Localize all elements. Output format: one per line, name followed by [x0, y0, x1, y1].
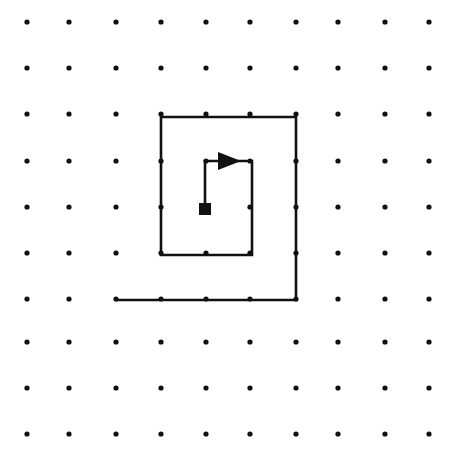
grid-dot	[24, 250, 29, 255]
grid-dot	[426, 431, 431, 436]
grid-dot	[382, 339, 387, 344]
grid-dot	[203, 385, 208, 390]
grid-dot	[382, 250, 387, 255]
grid-dot	[426, 111, 431, 116]
grid-dot	[24, 204, 29, 209]
grid-dot	[335, 19, 340, 24]
grid-dot	[66, 158, 71, 163]
grid-dot	[335, 111, 340, 116]
grid-dot	[382, 111, 387, 116]
diagram-canvas	[0, 0, 461, 470]
grid-dot	[382, 385, 387, 390]
grid-dot	[24, 296, 29, 301]
grid-dot	[247, 431, 252, 436]
grid-dot	[203, 431, 208, 436]
grid-dot	[293, 385, 298, 390]
grid-dot	[66, 19, 71, 24]
start-square-marker	[199, 203, 211, 215]
grid-dot	[382, 296, 387, 301]
grid-dot	[382, 65, 387, 70]
grid-dot	[203, 65, 208, 70]
grid-dot	[335, 431, 340, 436]
grid-dot	[113, 250, 118, 255]
grid-dot	[426, 339, 431, 344]
grid-dot	[24, 65, 29, 70]
grid-dot	[113, 111, 118, 116]
grid-dot	[66, 385, 71, 390]
grid-dot	[382, 431, 387, 436]
grid-dot	[335, 296, 340, 301]
grid-dot	[426, 385, 431, 390]
grid-dot	[66, 111, 71, 116]
grid-dot	[24, 339, 29, 344]
grid-dot	[24, 385, 29, 390]
grid-dot	[426, 158, 431, 163]
grid-dot	[293, 19, 298, 24]
grid-dot	[426, 65, 431, 70]
grid-dot	[66, 431, 71, 436]
grid-dot	[335, 65, 340, 70]
grid-dot	[293, 339, 298, 344]
grid-dot	[335, 385, 340, 390]
grid-dot	[158, 385, 163, 390]
spiral-diagram	[0, 0, 461, 470]
grid-dot	[113, 158, 118, 163]
grid-dot	[426, 19, 431, 24]
grid-dot	[382, 158, 387, 163]
grid-dot	[158, 65, 163, 70]
grid-dot	[426, 204, 431, 209]
grid-dot	[247, 19, 252, 24]
grid-dot	[113, 65, 118, 70]
grid-dot	[66, 250, 71, 255]
grid-dot	[24, 19, 29, 24]
grid-dot	[24, 111, 29, 116]
grid-dot	[335, 250, 340, 255]
grid-dot	[382, 19, 387, 24]
grid-dot	[113, 339, 118, 344]
grid-dot	[66, 339, 71, 344]
grid-dot	[335, 158, 340, 163]
grid-dot	[66, 296, 71, 301]
grid-dot	[24, 158, 29, 163]
grid-dot	[203, 19, 208, 24]
grid-dot	[113, 385, 118, 390]
grid-dot	[66, 65, 71, 70]
grid-dot	[158, 339, 163, 344]
grid-dot	[158, 19, 163, 24]
grid-dot	[247, 339, 252, 344]
grid-dot	[382, 204, 387, 209]
grid-dot	[293, 431, 298, 436]
grid-dot	[426, 296, 431, 301]
grid-dot	[335, 339, 340, 344]
grid-dot	[247, 385, 252, 390]
grid-dot	[66, 204, 71, 209]
grid-dot	[158, 431, 163, 436]
grid-dot	[247, 65, 252, 70]
grid-dot	[113, 431, 118, 436]
grid-dot	[426, 250, 431, 255]
grid-dot	[335, 204, 340, 209]
grid-dot	[24, 431, 29, 436]
grid-dot	[293, 65, 298, 70]
grid-dot	[113, 19, 118, 24]
grid-dot	[203, 339, 208, 344]
grid-dot	[113, 204, 118, 209]
